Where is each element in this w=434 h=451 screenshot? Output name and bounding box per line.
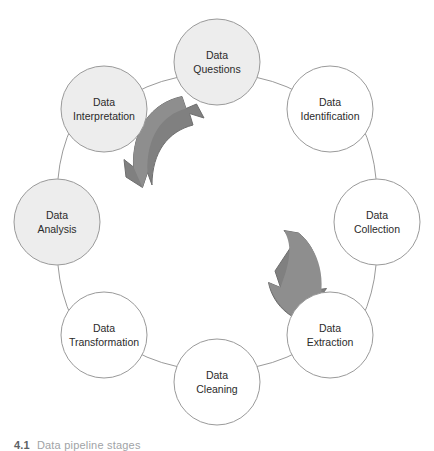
node-label-line1: Data: [93, 322, 115, 334]
node-label-line1: Data: [206, 49, 228, 61]
node-label-line2: Transformation: [69, 336, 139, 348]
figure-caption: 4.1Data pipeline stages: [0, 439, 434, 451]
node-label-line1: Data: [366, 209, 388, 221]
node-label-line2: Extraction: [307, 336, 354, 348]
node-data-interpretation[interactable]: Data Interpretation: [61, 66, 147, 152]
node-label-line1: Data: [46, 209, 68, 221]
node-label-line2: Identification: [301, 110, 360, 122]
node-label-line1: Data: [93, 96, 115, 108]
node-data-extraction[interactable]: Data Extraction: [287, 292, 373, 378]
node-label-line1: Data: [319, 322, 341, 334]
node-label-line2: Collection: [354, 223, 400, 235]
cycle-diagram-canvas: Data Questions Data Identification Data …: [0, 0, 434, 451]
node-label-line2: Cleaning: [196, 383, 238, 395]
node-data-questions[interactable]: Data Questions: [174, 19, 260, 105]
figure-caption-text: Data pipeline stages: [37, 439, 141, 451]
node-label-line1: Data: [206, 369, 228, 381]
node-label-line1: Data: [319, 96, 341, 108]
node-data-cleaning[interactable]: Data Cleaning: [174, 339, 260, 425]
node-data-transformation[interactable]: Data Transformation: [61, 292, 147, 378]
figure-caption-number: 4.1: [14, 439, 30, 451]
cycle-diagram: Data Questions Data Identification Data …: [0, 0, 434, 451]
node-data-collection[interactable]: Data Collection: [334, 179, 420, 265]
node-label-line2: Analysis: [37, 223, 76, 235]
node-data-analysis[interactable]: Data Analysis: [14, 179, 100, 265]
node-label-line2: Questions: [193, 63, 240, 75]
node-label-line2: Interpretation: [73, 110, 135, 122]
node-data-identification[interactable]: Data Identification: [287, 66, 373, 152]
